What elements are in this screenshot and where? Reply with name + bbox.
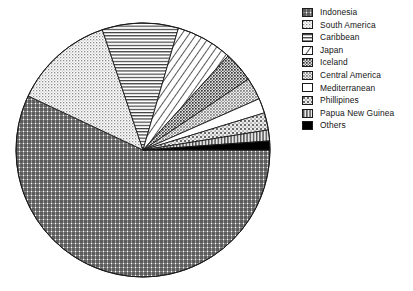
pie-slice-group (16, 23, 270, 277)
legend-item-label: Phillipines (320, 94, 359, 107)
legend-swatch-icon (302, 33, 313, 42)
legend-swatch-icon (302, 20, 313, 29)
legend-item: Japan (302, 44, 410, 57)
legend-item-label: Papua New Guinea (320, 107, 394, 120)
legend-item-label: Others (320, 119, 346, 132)
legend-swatch-icon (302, 96, 313, 105)
legend-item: South America (302, 19, 410, 32)
legend-item-label: Japan (320, 44, 343, 57)
legend-swatch-icon (302, 109, 313, 118)
legend-item: Papua New Guinea (302, 107, 410, 120)
legend-item-label: South America (320, 19, 376, 32)
legend-item: Phillipines (302, 94, 410, 107)
legend-swatch-icon (302, 121, 313, 130)
legend-item-label: Mediterranean (320, 82, 375, 95)
legend-item: Central America (302, 69, 410, 82)
chart-legend: IndonesiaSouth AmericaCaribbeanJapanIcel… (302, 6, 410, 132)
legend-item-label: Indonesia (320, 6, 357, 19)
legend-swatch-icon (302, 46, 313, 55)
legend-item: Others (302, 119, 410, 132)
legend-swatch-icon (302, 83, 313, 92)
legend-item-label: Iceland (320, 56, 348, 69)
legend-item: Iceland (302, 56, 410, 69)
legend-swatch-icon (302, 71, 313, 80)
legend-item: Mediterranean (302, 82, 410, 95)
pie-chart-figure: IndonesiaSouth AmericaCaribbeanJapanIcel… (0, 0, 413, 291)
legend-item: Indonesia (302, 6, 410, 19)
legend-swatch-icon (302, 8, 313, 17)
legend-item: Caribbean (302, 31, 410, 44)
legend-swatch-icon (302, 58, 313, 67)
legend-item-label: Caribbean (320, 31, 360, 44)
legend-item-label: Central America (320, 69, 381, 82)
